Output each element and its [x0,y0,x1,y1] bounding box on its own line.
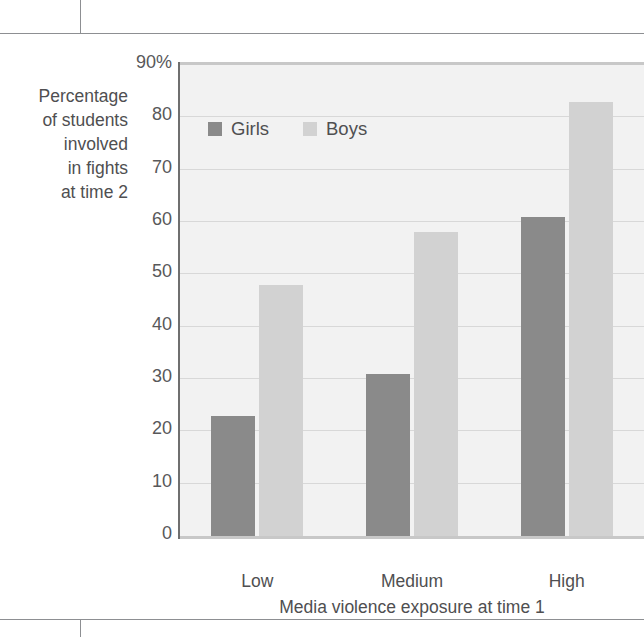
plot-area: Girls Boys [180,62,644,536]
bar-girls-high [521,217,565,536]
bar-girls-medium [366,374,410,536]
chart-legend: Girls Boys [208,120,367,138]
legend-label-boys: Boys [326,120,367,138]
bar-boys-low [259,285,303,536]
x-axis-baseline [180,536,644,539]
bar-girls-low [211,416,255,536]
y-axis-tick-labels: 0102030405060708090% [108,62,172,533]
y-axis-tick-label: 50 [112,262,172,280]
x-axis-tick-label-medium: Medium [381,570,443,592]
square-swatch-icon [208,122,222,136]
x-axis-tick-label-low: Low [241,570,273,592]
y-axis-tick-label: 20 [112,419,172,437]
bar-boys-medium [414,232,458,536]
legend-label-girls: Girls [231,120,269,138]
y-axis-tick-label: 60 [112,210,172,228]
y-axis-tick-label: 80 [112,105,172,123]
square-swatch-icon [303,122,317,136]
y-axis-tick-label: 10 [112,472,172,490]
y-axis-tick-label: 30 [112,367,172,385]
y-axis-tick-label: 90% [112,53,172,71]
page-rule-top-vertical-stub [80,0,81,34]
bar-chart-figure: Percentage of students involved in fight… [0,34,644,619]
x-axis-title: Media violence exposure at time 1 [180,596,644,618]
x-axis-tick-labels: LowMediumHigh [180,570,644,596]
scanned-figure-page: Percentage of students involved in fight… [0,0,644,637]
x-axis-tick-label-high: High [549,570,585,592]
legend-item-boys: Boys [303,120,367,138]
y-axis-tick-label: 70 [112,158,172,176]
legend-item-girls: Girls [208,120,269,138]
y-axis-tick-label: 40 [112,315,172,333]
bar-boys-high [569,102,613,536]
page-rule-bottom-vertical-stub [80,620,81,637]
page-rule-bottom [0,619,644,620]
y-axis-tick-label: 0 [112,524,172,542]
